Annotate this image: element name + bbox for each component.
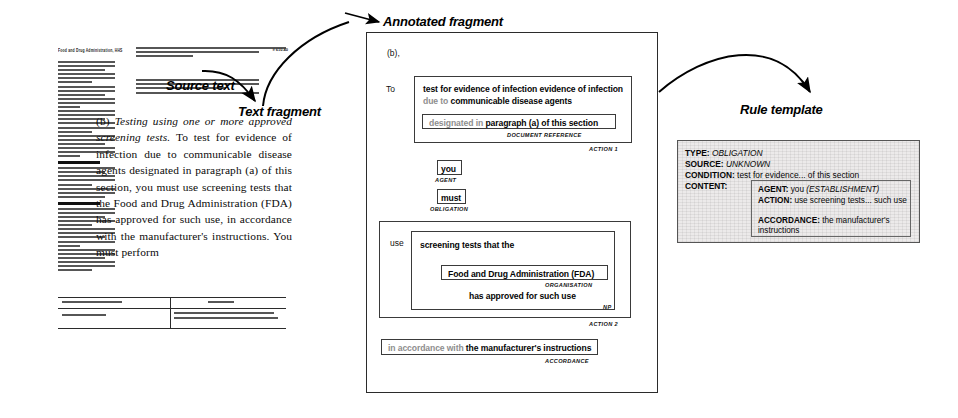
docref-faint: designated in [429, 118, 485, 128]
source-text-excerpt: (b) Testing using one or more approved s… [96, 113, 292, 261]
action1-bold-2: communicable disease agents [450, 96, 571, 106]
document-reference-tag: DOCUMENT REFERENCE [507, 132, 582, 138]
accordance-box: in accordance with the manufacturer's in… [381, 339, 598, 355]
rule-template-panel: TYPE: OBLIGATION SOURCE: UNKNOWN CONDITI… [677, 140, 920, 243]
rule-content-key: CONTENT: [685, 181, 727, 191]
rule-source-key: SOURCE: [685, 159, 724, 169]
agent-tag: AGENT [435, 177, 456, 183]
rule-action-value: use screening tests... such use [794, 196, 906, 205]
rule-action-key: ACTION: [758, 196, 792, 205]
np-tag: NP [603, 304, 611, 310]
rule-source-row: SOURCE: UNKNOWN [685, 159, 770, 169]
accordance-bold: the manufacturer's instructions [466, 343, 592, 353]
rule-type-row: TYPE: OBLIGATION [685, 148, 763, 158]
rule-content-box: AGENT: you (ESTABLISHMENT) ACTION: use s… [751, 180, 911, 237]
excerpt-marker: (b) [96, 115, 110, 127]
organisation-text: Food and Drug Administration (FDA) [448, 269, 594, 281]
np-line-2: has approved for such use [469, 291, 576, 303]
obligation-box: must [437, 189, 466, 204]
rule-accordance-row: ACCORDANCE: the manufacturer's instructi… [758, 216, 908, 237]
rule-source-value: UNKNOWN [726, 159, 770, 169]
annotated-to-label: To [386, 84, 395, 94]
arrow-annotated-label-pointer [345, 13, 379, 22]
label-annotated-fragment: Annotated fragment [383, 14, 503, 29]
rule-content-row: CONTENT: [685, 181, 727, 191]
action2-tag: ACTION 2 [589, 321, 618, 327]
agent-text: you [441, 164, 456, 176]
action1-bold-1: test for evidence of infection evidence … [423, 84, 623, 94]
rule-action-row: ACTION: use screening tests... such use [758, 196, 908, 206]
np-line-1: screening tests that the [420, 240, 514, 252]
rule-agent-value: you [791, 185, 804, 194]
accordance-text: in accordance with the manufacturer's in… [388, 343, 591, 355]
diagram-canvas: Food and Drug Administration, HHS § 610.… [0, 0, 958, 418]
rule-type-key: TYPE: [685, 148, 710, 158]
obligation-text: must [441, 193, 461, 205]
organisation-box: Food and Drug Administration (FDA) [441, 265, 608, 280]
docref-bold: paragraph (a) of this section [485, 118, 598, 128]
rule-agent-row: AGENT: you (ESTABLISHMENT) [758, 185, 908, 195]
label-source-text: Source text [166, 78, 235, 93]
label-rule-template: Rule template [740, 102, 823, 117]
rule-accordance-key: ACCORDANCE: [758, 216, 820, 225]
document-bottom-table [58, 297, 286, 329]
action1-faint: due to [423, 96, 450, 106]
obligation-tag: OBLIGATION [430, 206, 468, 212]
action1-phrase: test for evidence of infection evidence … [423, 84, 623, 107]
rule-agent-key: AGENT: [758, 185, 788, 194]
organisation-tag: ORGANISATION [545, 282, 592, 288]
document-reference-text: designated in paragraph (a) of this sect… [429, 118, 598, 130]
rule-agent-type: (ESTABLISHMENT) [806, 185, 879, 194]
rule-condition-value: test for evidence... of this section [737, 170, 859, 180]
agent-box: you [437, 160, 462, 175]
document-reference-box: designated in paragraph (a) of this sect… [422, 114, 616, 129]
accordance-faint: in accordance with [388, 343, 466, 353]
annotated-paragraph-marker: (b), [387, 48, 400, 58]
excerpt-body: To test for evidence of infection due to… [96, 131, 292, 258]
rule-condition-key: CONDITION: [685, 170, 735, 180]
accordance-tag: ACCORDANCE [545, 358, 589, 364]
rule-condition-row: CONDITION: test for evidence... of this … [685, 170, 859, 180]
arrow-annotated-to-rule [659, 55, 810, 92]
annotated-fragment-panel: (b), To test for evidence of infection e… [366, 32, 658, 393]
action1-tag: ACTION 1 [589, 146, 618, 152]
rule-type-value: OBLIGATION [712, 148, 763, 158]
action2-verb: use [390, 238, 404, 248]
label-text-fragment: Text fragment [238, 104, 321, 119]
document-header-text: Food and Drug Administration, HHS [58, 47, 123, 53]
